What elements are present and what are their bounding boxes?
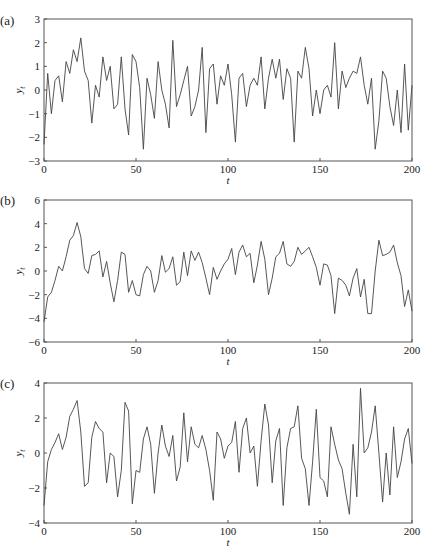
y-tick-label: −2 [28, 131, 40, 143]
y-tick-label: −4 [28, 312, 40, 324]
y-tick-label: −2 [28, 482, 40, 494]
x-axis-label: t [226, 536, 230, 548]
x-tick-label: 0 [41, 525, 47, 537]
x-tick-label: 0 [41, 344, 47, 356]
x-axis-label: t [226, 355, 230, 367]
y-tick-label: 0 [35, 265, 41, 277]
x-tick-label: 150 [312, 344, 329, 356]
panel-b-label: (b) [0, 193, 15, 208]
y-axis-label: yt [12, 86, 27, 95]
y-tick-label: −2 [28, 289, 40, 301]
x-tick-label: 200 [404, 163, 421, 175]
panel-a-label: (a) [0, 13, 14, 28]
x-axis-label: t [226, 174, 230, 186]
y-tick-label: 2 [35, 241, 41, 253]
y-tick-label: 0 [35, 447, 41, 459]
y-axis-label: yt [12, 449, 27, 458]
figure: (a) −3−2−10123050100150200tyt (b) −6−4−2… [0, 0, 430, 556]
x-tick-label: 200 [404, 344, 421, 356]
y-tick-label: 2 [35, 412, 41, 424]
y-tick-label: 0 [35, 84, 41, 96]
panel-c-label: (c) [0, 376, 14, 391]
series-line [44, 388, 412, 514]
x-tick-label: 50 [131, 344, 143, 356]
x-tick-label: 150 [312, 525, 329, 537]
y-tick-label: −6 [28, 336, 40, 348]
series-line [44, 38, 412, 149]
plot-frame [44, 19, 412, 161]
y-tick-label: −4 [28, 517, 40, 529]
panel-a: (a) −3−2−10123050100150200tyt [0, 13, 421, 186]
y-tick-label: −1 [28, 108, 40, 120]
x-tick-label: 0 [41, 163, 47, 175]
panel-b: (b) −6−4−20246050100150200tyt [0, 193, 421, 367]
y-tick-label: 2 [35, 37, 41, 49]
panel-c: (c) −4−2024050100150200tyt [0, 376, 421, 548]
y-axis-label: yt [12, 267, 27, 276]
y-tick-label: 6 [35, 194, 41, 206]
y-tick-label: 1 [35, 60, 41, 72]
y-tick-label: 3 [35, 13, 41, 25]
x-tick-label: 150 [312, 163, 329, 175]
series-line [44, 223, 412, 322]
x-tick-label: 50 [131, 525, 143, 537]
plot-frame [44, 383, 412, 523]
y-tick-label: −3 [28, 155, 40, 167]
x-tick-label: 200 [404, 525, 421, 537]
y-tick-label: 4 [35, 377, 41, 389]
x-tick-label: 50 [131, 163, 143, 175]
y-tick-label: 4 [35, 218, 41, 230]
